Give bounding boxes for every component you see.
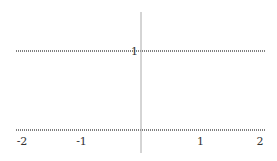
tick-labels: -2-1121	[17, 45, 264, 148]
plot-area: -2-1121	[0, 0, 277, 161]
x-tick-label: -1	[76, 135, 87, 148]
y-tick-label: 1	[131, 45, 138, 58]
x-tick-label: 2	[257, 135, 264, 148]
x-tick-label: -2	[17, 135, 28, 148]
x-tick-label: 1	[197, 135, 204, 148]
